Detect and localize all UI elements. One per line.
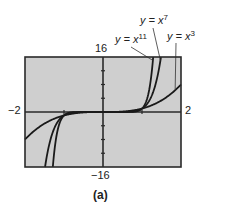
legend-x11: y = x11 xyxy=(115,33,147,45)
ymin-label: −16 xyxy=(91,169,110,181)
ymax-label: 16 xyxy=(95,42,107,54)
legend-x3: y = x3 xyxy=(167,30,195,42)
legend-x7: y = x7 xyxy=(140,14,168,26)
plot-canvas xyxy=(0,0,248,213)
xmin-label: −2 xyxy=(8,104,21,116)
xmax-label: 2 xyxy=(185,104,191,116)
figure-caption: (a) xyxy=(93,188,108,202)
